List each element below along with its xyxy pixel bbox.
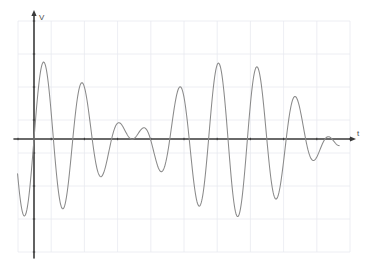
x-axis-arrowhead <box>350 136 356 141</box>
x-axis-label: t <box>357 129 360 138</box>
grid <box>18 21 350 252</box>
waveform-svg: V t <box>0 0 368 269</box>
y-axis-label: V <box>39 13 45 22</box>
y-axis-arrowhead <box>31 10 36 16</box>
waveform-figure: V t <box>0 0 368 269</box>
